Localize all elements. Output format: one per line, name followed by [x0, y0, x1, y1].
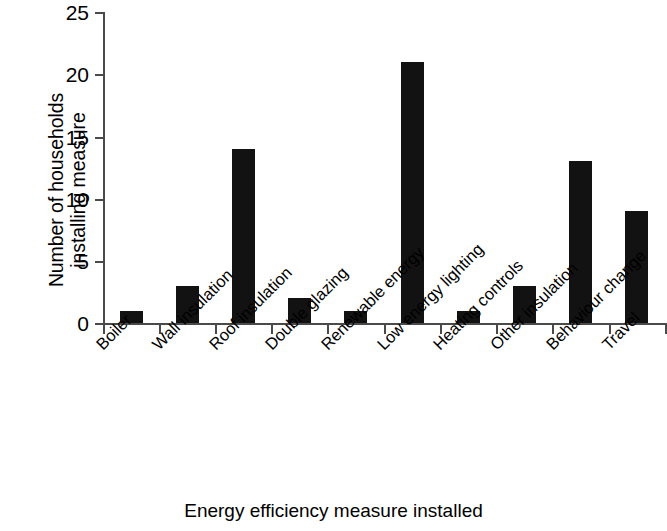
x-label-travel: Travel — [599, 309, 643, 353]
x-axis-title: Energy efficiency measure installed — [0, 500, 667, 522]
y-tick-label-25: 25 — [45, 2, 89, 23]
y-tick-label-20: 20 — [45, 64, 89, 85]
y-tick-25 — [95, 12, 104, 14]
y-tick-label-10: 10 — [45, 189, 89, 210]
y-tick-10 — [95, 199, 104, 201]
y-tick-label-0: 0 — [45, 313, 89, 334]
y-tick-label-15: 15 — [45, 127, 89, 148]
x-label-boiler: Boiler — [93, 311, 134, 352]
y-tick-15 — [95, 137, 104, 139]
y-tick-5 — [95, 261, 104, 263]
y-tick-label-5: 5 — [45, 251, 89, 272]
y-tick-20 — [95, 74, 104, 76]
y-axis-line — [103, 12, 105, 325]
bar-chart: Number of households installing measure … — [0, 0, 667, 531]
bar-low-energy-lighting — [401, 62, 424, 323]
x-label-low-energy-lighting: Low energy lighting — [374, 240, 486, 352]
plot-area: 25 20 15 10 5 0 BoilerWall insulationRoo… — [0, 0, 667, 531]
